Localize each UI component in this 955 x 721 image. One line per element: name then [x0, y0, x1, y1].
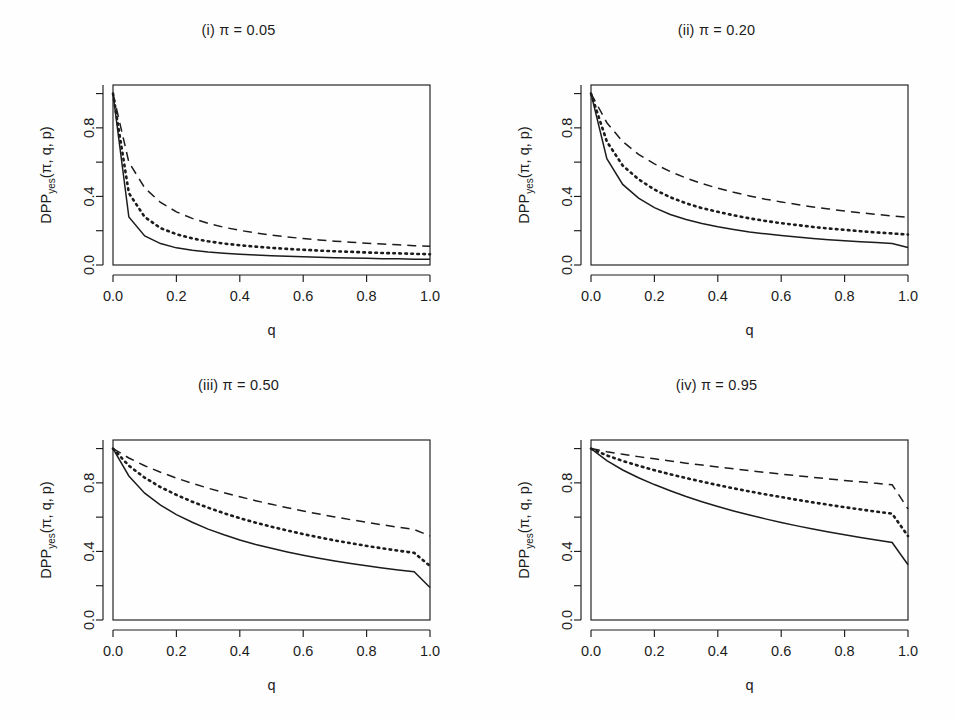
series-line-dashed	[113, 94, 430, 247]
plot-area-iv: 0.00.20.40.60.81.00.00.40.8qDPPyes(π, q,…	[478, 355, 955, 715]
x-tick-label: 0.8	[835, 643, 855, 659]
y-tick-label: 0.0	[559, 610, 575, 630]
plot-frame	[591, 85, 908, 265]
x-tick-label: 0.0	[103, 643, 123, 659]
x-tick-label: 1.0	[420, 288, 440, 304]
x-tick-label: 0.6	[293, 643, 313, 659]
x-tick-label: 1.0	[420, 643, 440, 659]
x-tick-label: 0.2	[644, 643, 664, 659]
y-axis-label-text: DPPyes(π, q, p)	[38, 481, 57, 578]
y-tick-label: 0.8	[559, 473, 575, 493]
y-axis-label-main: DPP	[516, 194, 532, 224]
y-axis-label: DPPyes(π, q, p)	[38, 481, 57, 578]
y-axis-label: DPPyes(π, q, p)	[38, 126, 57, 223]
series-line-solid	[113, 449, 430, 588]
y-axis-label-main: DPP	[38, 549, 54, 579]
x-tick-label: 0.2	[644, 288, 664, 304]
x-tick-label: 1.0	[898, 288, 918, 304]
x-tick-label: 0.8	[835, 288, 855, 304]
panel-i: (i) π = 0.05 0.00.20.40.60.81.00.00.40.8…	[0, 0, 477, 360]
x-tick-label: 0.0	[581, 288, 601, 304]
y-axis-label-main: DPP	[516, 549, 532, 579]
y-axis-label-main: DPP	[38, 194, 54, 224]
series-line-dotted	[113, 94, 430, 255]
x-tick-label: 0.6	[771, 288, 791, 304]
x-tick-label: 0.4	[230, 643, 250, 659]
y-tick-label: 0.4	[559, 541, 575, 561]
y-axis-label-args: (π, q, p)	[516, 481, 532, 533]
figure-canvas: (i) π = 0.05 0.00.20.40.60.81.00.00.40.8…	[0, 0, 955, 721]
x-axis-label: q	[267, 322, 275, 338]
x-axis-label: q	[267, 677, 275, 693]
x-tick-label: 0.6	[293, 288, 313, 304]
y-axis-label-args: (π, q, p)	[38, 126, 54, 178]
y-axis-label: DPPyes(π, q, p)	[516, 481, 535, 578]
y-axis-label: DPPyes(π, q, p)	[516, 126, 535, 223]
x-tick-label: 0.2	[166, 288, 186, 304]
x-tick-label: 0.4	[708, 643, 728, 659]
plot-area-ii: 0.00.20.40.60.81.00.00.40.8qDPPyes(π, q,…	[478, 0, 955, 360]
plot-area-iii: 0.00.20.40.60.81.00.00.40.8qDPPyes(π, q,…	[0, 355, 477, 715]
y-tick-label: 0.4	[81, 541, 97, 561]
x-tick-label: 0.8	[357, 643, 377, 659]
x-tick-label: 0.4	[708, 288, 728, 304]
y-tick-label: 0.8	[81, 118, 97, 138]
panel-iii: (iii) π = 0.50 0.00.20.40.60.81.00.00.40…	[0, 355, 477, 715]
y-axis-label-text: DPPyes(π, q, p)	[516, 481, 535, 578]
y-tick-label: 0.4	[559, 186, 575, 206]
y-tick-label: 0.8	[559, 118, 575, 138]
plot-frame	[591, 440, 908, 620]
x-tick-label: 0.6	[771, 643, 791, 659]
panel-ii: (ii) π = 0.20 0.00.20.40.60.81.00.00.40.…	[478, 0, 955, 360]
y-axis-label-args: (π, q, p)	[38, 481, 54, 533]
panel-iv: (iv) π = 0.95 0.00.20.40.60.81.00.00.40.…	[478, 355, 955, 715]
plot-area-i: 0.00.20.40.60.81.00.00.40.8qDPPyes(π, q,…	[0, 0, 477, 360]
y-tick-label: 0.0	[559, 255, 575, 275]
x-axis-label: q	[745, 322, 753, 338]
x-tick-label: 0.4	[230, 288, 250, 304]
y-tick-label: 0.8	[81, 473, 97, 493]
plot-frame	[113, 85, 430, 265]
series-line-dashed	[113, 449, 430, 536]
y-axis-label-text: DPPyes(π, q, p)	[516, 126, 535, 223]
x-tick-label: 0.0	[581, 643, 601, 659]
y-axis-label-args: (π, q, p)	[516, 126, 532, 178]
series-line-solid	[113, 94, 430, 260]
y-tick-label: 0.0	[81, 255, 97, 275]
series-line-solid	[591, 94, 908, 248]
x-tick-label: 1.0	[898, 643, 918, 659]
y-axis-label-subscript: yes	[46, 178, 57, 194]
y-tick-label: 0.4	[81, 186, 97, 206]
x-tick-label: 0.0	[103, 288, 123, 304]
series-line-dashed	[591, 449, 908, 509]
y-axis-label-subscript: yes	[524, 178, 535, 194]
y-axis-label-text: DPPyes(π, q, p)	[38, 126, 57, 223]
x-axis-label: q	[745, 677, 753, 693]
series-line-dotted	[591, 94, 908, 235]
x-tick-label: 0.8	[357, 288, 377, 304]
x-tick-label: 0.2	[166, 643, 186, 659]
y-tick-label: 0.0	[81, 610, 97, 630]
y-axis-label-subscript: yes	[46, 533, 57, 549]
y-axis-label-subscript: yes	[524, 533, 535, 549]
series-line-dotted	[591, 449, 908, 536]
plot-frame	[113, 440, 430, 620]
